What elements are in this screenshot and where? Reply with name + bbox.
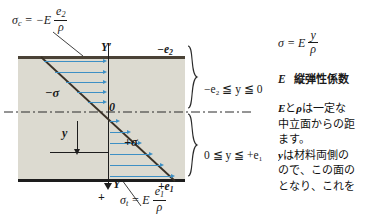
body-line: となり、これを <box>278 179 367 195</box>
stress-arrow-line <box>110 154 150 155</box>
formula-top-lhs-sub: c <box>18 19 22 28</box>
y-distance-base-line <box>50 152 108 153</box>
legend-symbol: E <box>278 73 286 85</box>
formula-right-fraction: y ρ <box>308 29 318 57</box>
formula-right-eq: = E <box>287 36 305 50</box>
formula-bottom-numerator: e1 <box>153 185 166 201</box>
y-distance-arrow-shaft <box>77 121 78 151</box>
range-label-upper: −e₂ ≦ y ≦ 0 <box>204 82 263 96</box>
formula-bottom-eq: = E <box>131 193 149 207</box>
legend-description: 縦弾性係数 <box>294 73 349 86</box>
stress-arrow-head <box>103 59 107 63</box>
stress-arrow-head <box>160 163 164 167</box>
formula-sigma-tension: σt = E e1 ρ <box>120 186 166 216</box>
stress-arrow-head <box>103 70 107 74</box>
label-positive-sigma: +σ <box>124 135 138 150</box>
stress-arrow-head <box>116 119 120 123</box>
brace-upper <box>188 46 197 108</box>
body-line: ます。 <box>278 132 367 148</box>
body-line: Eとρは一定な <box>278 101 367 117</box>
label-negative-sigma: −σ <box>45 86 59 101</box>
stress-arrow-head <box>103 80 107 84</box>
formula-bottom-fraction: e1 ρ <box>153 185 166 215</box>
formula-sigma-general: σ = E y ρ <box>278 30 318 58</box>
stress-arrow-line <box>110 165 161 166</box>
formula-top-numerator: e2 <box>54 5 67 21</box>
brace-lower <box>188 114 197 176</box>
formula-bottom-lhs-sub: t <box>126 199 128 208</box>
range-label-lower: 0 ≦ y ≦ +e₁ <box>204 148 263 162</box>
stress-arrow-line <box>55 72 104 73</box>
formula-right-lhs: σ <box>278 36 284 50</box>
stress-arrow-line <box>77 92 104 93</box>
body-line: ので、この面の <box>278 163 367 179</box>
stress-arrow-head <box>103 100 107 104</box>
formula-right-denominator: ρ <box>308 43 318 57</box>
body-paragraph: Eとρは一定な 中立面からの距 ます。 yは材料両側の ので、この面の となり、… <box>278 101 367 194</box>
stress-arrow-line <box>88 102 104 103</box>
label-origin: 0 <box>109 100 115 115</box>
figure-canvas: σc = −E e2 ρ <box>0 0 367 218</box>
stress-arrow-head <box>138 141 142 145</box>
legend-modulus: E 縦弾性係数 <box>278 70 349 86</box>
label-y-distance: y <box>62 126 67 141</box>
beam-section-body <box>18 58 185 180</box>
stress-arrow-head <box>103 90 107 94</box>
label-e2-top: −e2 <box>157 43 173 57</box>
formula-sigma-compression: σc = −E e2 ρ <box>12 6 67 36</box>
formula-top-fraction: e2 ρ <box>54 5 67 35</box>
stress-arrow-line <box>110 132 128 133</box>
stress-arrow-head <box>171 174 175 178</box>
formula-top-eq: = −E <box>25 13 52 27</box>
stress-arrow-line <box>44 61 104 62</box>
formula-bottom-denominator: ρ <box>153 201 166 215</box>
formula-right-numerator: y <box>308 29 318 43</box>
stress-arrow-head <box>149 152 153 156</box>
label-y-prime-axis: Y′ <box>101 40 112 55</box>
range-braces <box>186 44 206 180</box>
stress-arrow-line <box>66 82 104 83</box>
body-line: yは材料両側の <box>278 148 367 164</box>
label-plus-sign: + <box>98 190 105 205</box>
formula-top-denominator: ρ <box>54 21 67 35</box>
vertical-axis-arrowhead <box>104 183 112 190</box>
stress-arrow-head <box>127 130 131 134</box>
body-line: 中立面からの距 <box>278 117 367 133</box>
